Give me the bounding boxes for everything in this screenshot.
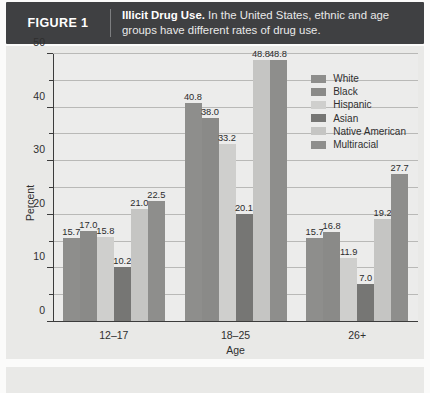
legend-label: Hispanic xyxy=(333,99,371,110)
bar-value-label: 15.8 xyxy=(96,226,114,236)
legend-item[interactable]: White xyxy=(311,72,406,85)
bar-value-label: 27.7 xyxy=(391,163,409,173)
figure-caption: Illicit Drug Use. In the United States, … xyxy=(111,2,424,44)
bar[interactable] xyxy=(306,238,323,322)
bar-slot: 33.2 xyxy=(219,54,236,322)
bar[interactable] xyxy=(131,209,148,322)
legend-label: Black xyxy=(333,86,357,97)
bar[interactable] xyxy=(202,118,219,322)
figure-header: FIGURE 1 Illicit Drug Use. In the United… xyxy=(6,2,424,44)
bar-group: 40.838.033.220.148.848.818–25 xyxy=(175,54,297,322)
bar[interactable] xyxy=(63,238,80,322)
bar[interactable] xyxy=(185,103,202,322)
chart-area: Percent 01020304050 15.717.015.810.221.0… xyxy=(6,46,424,359)
figure-container: FIGURE 1 Illicit Drug Use. In the United… xyxy=(0,0,430,393)
x-tick-label: 12–17 xyxy=(99,329,128,341)
bar-value-label: 38.0 xyxy=(201,107,219,117)
bar-slot: 17.0 xyxy=(80,54,97,322)
bar-value-label: 17.0 xyxy=(79,220,97,230)
y-tick-label: 50 xyxy=(33,36,45,48)
legend-swatch-icon xyxy=(311,101,326,109)
bar[interactable] xyxy=(148,201,165,322)
bar[interactable] xyxy=(323,232,340,322)
x-axis-title: Age xyxy=(53,344,418,356)
legend-label: White xyxy=(333,73,359,84)
figure-number-label: FIGURE 1 xyxy=(6,2,110,44)
legend-swatch-icon xyxy=(311,141,326,149)
bar-slot: 48.8 xyxy=(270,54,287,322)
y-tick-label: 0 xyxy=(39,304,45,316)
bar-value-label: 21.0 xyxy=(130,198,148,208)
legend-swatch-icon xyxy=(311,88,326,96)
legend-item[interactable]: Multiracial xyxy=(311,138,406,151)
x-tick-label: 26+ xyxy=(348,329,366,341)
legend-label: Asian xyxy=(333,113,358,124)
bar-group: 15.717.015.810.221.022.512–17 xyxy=(53,54,175,322)
caption-title: Illicit Drug Use. xyxy=(122,9,205,21)
bar-value-label: 15.7 xyxy=(306,227,324,237)
y-tick-label: 10 xyxy=(33,250,45,262)
bar-slot: 38.0 xyxy=(202,54,219,322)
legend-label: Multiracial xyxy=(333,139,378,150)
bar-value-label: 48.8 xyxy=(252,49,270,59)
bar-value-label: 20.1 xyxy=(235,203,253,213)
bar-slot: 48.8 xyxy=(253,54,270,322)
bar-slot: 10.2 xyxy=(114,54,131,322)
y-tick-label: 30 xyxy=(33,143,45,155)
bar-slot: 15.7 xyxy=(63,54,80,322)
bar[interactable] xyxy=(340,258,357,322)
bar-slot: 22.5 xyxy=(148,54,165,322)
bar-value-label: 15.7 xyxy=(62,227,80,237)
bar-value-label: 7.0 xyxy=(359,273,372,283)
legend-item[interactable]: Black xyxy=(311,85,406,98)
legend-label: Native American xyxy=(333,126,406,137)
bar-value-label: 22.5 xyxy=(147,190,165,200)
bar[interactable] xyxy=(357,284,374,322)
bar-value-label: 40.8 xyxy=(184,92,202,102)
y-tick-label: 20 xyxy=(33,197,45,209)
legend-swatch-icon xyxy=(311,127,326,135)
legend-swatch-icon xyxy=(311,75,326,83)
y-axis-line xyxy=(53,54,54,322)
y-tick-label: 40 xyxy=(33,90,45,102)
bar-value-label: 33.2 xyxy=(218,133,236,143)
bar[interactable] xyxy=(219,144,236,322)
bar-value-label: 48.8 xyxy=(269,49,287,59)
bar-value-label: 19.2 xyxy=(374,208,392,218)
plot-area: 01020304050 15.717.015.810.221.022.512–1… xyxy=(53,54,418,322)
legend-item[interactable]: Hispanic xyxy=(311,98,406,111)
figure-footer-band xyxy=(6,367,424,393)
bar[interactable] xyxy=(270,60,287,322)
bar-slot: 15.8 xyxy=(97,54,114,322)
chart-legend: WhiteBlackHispanicAsianNative AmericanMu… xyxy=(311,72,406,151)
bar[interactable] xyxy=(97,237,114,322)
bar-value-label: 16.8 xyxy=(323,221,341,231)
bar-value-label: 11.9 xyxy=(340,247,357,257)
x-tick-label: 18–25 xyxy=(221,329,250,341)
bar[interactable] xyxy=(236,214,253,322)
bar[interactable] xyxy=(114,267,131,322)
bar-slot: 21.0 xyxy=(131,54,148,322)
bar-slot: 40.8 xyxy=(185,54,202,322)
bar[interactable] xyxy=(253,60,270,322)
legend-swatch-icon xyxy=(311,114,326,122)
bar-slot: 20.1 xyxy=(236,54,253,322)
bar-value-label: 10.2 xyxy=(113,256,131,266)
legend-item[interactable]: Asian xyxy=(311,112,406,125)
bar[interactable] xyxy=(391,174,408,322)
legend-item[interactable]: Native American xyxy=(311,125,406,138)
bar[interactable] xyxy=(374,219,391,322)
x-axis-line xyxy=(53,321,418,322)
bar[interactable] xyxy=(80,231,97,322)
